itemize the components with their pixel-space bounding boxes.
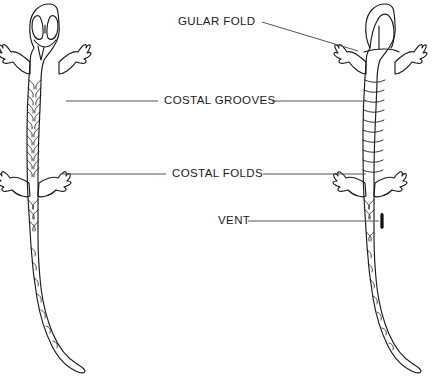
vent-slit (381, 214, 384, 229)
diagram-canvas: GULAR FOLD COSTAL GROOVES COSTAL FOLDS V… (0, 0, 434, 384)
label-costal-grooves: COSTAL GROOVES (164, 94, 276, 106)
label-gular-fold: GULAR FOLD (178, 15, 256, 27)
label-vent: VENT (218, 214, 250, 226)
salamander-anatomy-figure: GULAR FOLD COSTAL GROOVES COSTAL FOLDS V… (0, 0, 434, 384)
label-costal-folds: COSTAL FOLDS (172, 167, 263, 179)
figure-background (0, 0, 434, 384)
